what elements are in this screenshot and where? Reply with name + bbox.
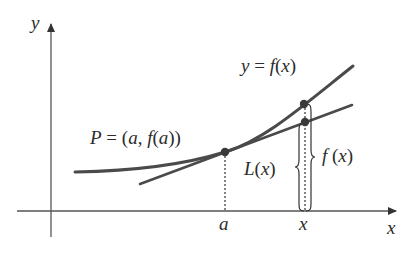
linear-approximation-diagram: y x y = f(x) P = (a, f(a)) L(x) f (x) a …	[0, 0, 407, 256]
point-p-label: P = (a, f(a))	[89, 127, 181, 149]
brace-tangent-value	[295, 123, 304, 211]
point-lx	[301, 118, 309, 126]
function-value-label: f (x)	[322, 145, 353, 167]
tick-x-label: x	[298, 213, 308, 234]
x-axis-label: x	[386, 217, 396, 238]
curve-label: y = f(x)	[239, 55, 296, 77]
point-p	[221, 148, 229, 156]
tangent-value-label: L(x)	[243, 158, 276, 180]
y-axis-label: y	[29, 12, 40, 33]
tick-a-label: a	[219, 213, 229, 234]
point-fx	[300, 100, 308, 108]
